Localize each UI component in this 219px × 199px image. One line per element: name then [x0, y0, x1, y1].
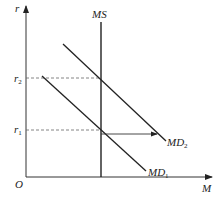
md2-label: MD2	[166, 136, 188, 150]
y-axis-label: r	[15, 2, 20, 14]
md1-curve	[42, 76, 146, 171]
ms-label: MS	[91, 8, 107, 20]
money-market-diagram: r M O MS r2 r1 MD2 MD1	[0, 0, 219, 199]
r1-label: r1	[14, 123, 22, 137]
md1-label: MD1	[147, 166, 169, 180]
md2-curve	[63, 44, 166, 141]
origin-label: O	[15, 178, 23, 190]
x-axis-label: M	[201, 182, 212, 194]
r2-label: r2	[14, 72, 22, 86]
